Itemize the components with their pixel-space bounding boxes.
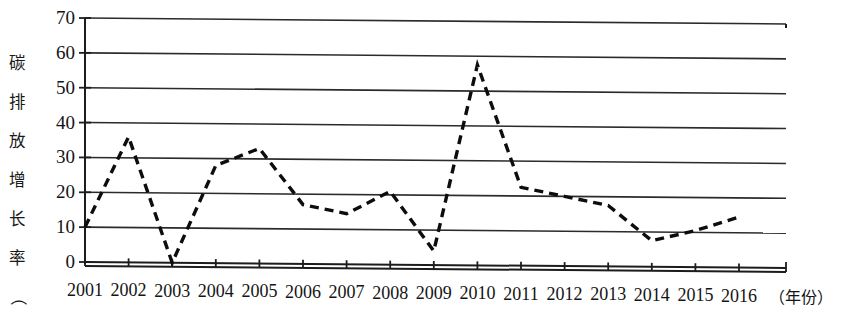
gridline [85,53,786,59]
gridlines [85,18,786,268]
gridline [85,88,786,94]
gridline [85,157,786,163]
gridline [85,123,786,129]
gridline [85,18,786,24]
gridline [85,192,786,198]
plot-area [0,0,864,309]
gridline [85,227,786,233]
carbon-emission-growth-rate-chart: 碳 排 放 增 长 率 （ % ） 010203040506070 200120… [0,0,864,309]
data-series-line [85,65,739,263]
